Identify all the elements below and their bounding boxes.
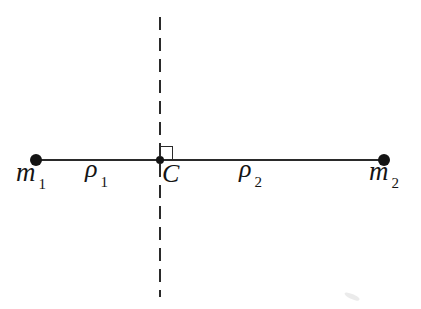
two-mass-center-of-mass-diagram: m 1 ρ 1 C ρ 2 m 2 (0, 0, 421, 309)
center-label: C (162, 161, 179, 187)
mass2-subscript: 2 (392, 176, 400, 191)
rho2-symbol: ρ (239, 156, 251, 182)
rho1-subscript: 1 (100, 175, 108, 190)
mass1-symbol: m (16, 159, 36, 186)
rho1-symbol: ρ (85, 156, 97, 182)
rho2-label: ρ 2 (239, 156, 262, 182)
mass1-label: m 1 (16, 159, 46, 186)
center-symbol: C (162, 161, 179, 187)
rho1-label: ρ 1 (85, 156, 108, 182)
mass2-symbol: m (369, 158, 389, 185)
mass1-subscript: 1 (39, 177, 47, 192)
mass2-label: m 2 (369, 158, 399, 185)
scan-smudge-artifact (344, 291, 361, 302)
rho2-subscript: 2 (254, 175, 262, 190)
